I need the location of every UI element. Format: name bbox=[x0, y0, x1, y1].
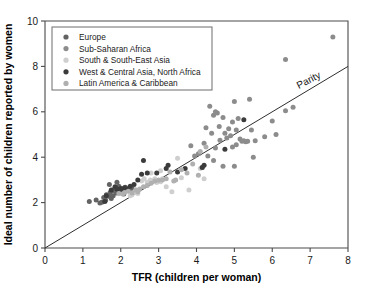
legend-swatch-4 bbox=[63, 69, 68, 74]
data-point bbox=[262, 134, 267, 139]
data-point bbox=[203, 144, 208, 149]
data-point bbox=[205, 154, 210, 159]
data-point bbox=[211, 158, 216, 163]
data-point bbox=[291, 105, 296, 110]
data-point bbox=[190, 162, 195, 167]
data-point bbox=[135, 177, 140, 182]
data-point bbox=[202, 176, 207, 181]
x-tick-label: 3 bbox=[156, 255, 162, 266]
legend-swatch-2 bbox=[63, 46, 68, 51]
data-point bbox=[236, 116, 241, 121]
data-point bbox=[226, 126, 231, 131]
data-point bbox=[175, 156, 180, 161]
x-tick-label: 2 bbox=[118, 255, 124, 266]
y-tick-label: 8 bbox=[32, 61, 38, 72]
data-point bbox=[274, 132, 279, 137]
data-point bbox=[186, 188, 191, 193]
data-point bbox=[283, 108, 288, 113]
data-point bbox=[232, 99, 237, 104]
data-point bbox=[107, 182, 112, 187]
y-axis-title: Ideal number of children reported by wom… bbox=[2, 24, 14, 246]
legend-swatch-5 bbox=[63, 81, 68, 86]
x-tick-label: 4 bbox=[194, 255, 200, 266]
legend-label-4: West & Central Asia, North Africa bbox=[79, 67, 201, 77]
data-point bbox=[253, 138, 258, 143]
x-tick-label: 8 bbox=[345, 255, 351, 266]
data-point bbox=[139, 172, 144, 177]
data-point bbox=[141, 158, 146, 163]
data-point bbox=[234, 127, 239, 132]
y-tick-label: 2 bbox=[32, 197, 38, 208]
data-point bbox=[209, 131, 214, 136]
data-point bbox=[135, 189, 140, 194]
legend-label-1: Europe bbox=[79, 32, 106, 42]
data-point bbox=[213, 109, 218, 114]
data-point bbox=[109, 188, 114, 193]
data-point bbox=[217, 124, 222, 129]
data-point bbox=[202, 163, 207, 168]
data-point bbox=[114, 180, 119, 185]
y-tick-label: 6 bbox=[32, 106, 38, 117]
data-point bbox=[245, 139, 250, 144]
data-point bbox=[251, 155, 256, 160]
data-point bbox=[179, 167, 184, 172]
scatter-chart: 0246810012345678TFR (children per woman)… bbox=[0, 0, 366, 298]
data-point bbox=[167, 169, 172, 174]
data-point bbox=[228, 133, 233, 138]
y-tick-label: 4 bbox=[32, 152, 38, 163]
y-tick-label: 0 bbox=[32, 243, 38, 254]
y-tick-label: 10 bbox=[27, 16, 39, 27]
data-point bbox=[104, 193, 109, 198]
data-point bbox=[120, 191, 125, 196]
data-point bbox=[188, 143, 193, 148]
data-point bbox=[198, 149, 203, 154]
data-point bbox=[192, 154, 197, 159]
data-point bbox=[154, 171, 159, 176]
data-point bbox=[145, 171, 150, 176]
legend-swatch-1 bbox=[63, 34, 68, 39]
data-point bbox=[196, 173, 201, 178]
data-point bbox=[247, 97, 252, 102]
data-point bbox=[234, 142, 239, 147]
data-point bbox=[213, 146, 218, 151]
data-point bbox=[164, 184, 169, 189]
data-point bbox=[132, 182, 137, 187]
parity-label: Parity bbox=[295, 69, 323, 90]
data-point bbox=[222, 131, 227, 136]
data-point bbox=[166, 163, 171, 168]
data-point bbox=[222, 147, 227, 152]
data-point bbox=[330, 34, 335, 39]
data-point bbox=[221, 164, 226, 169]
data-point bbox=[164, 176, 169, 181]
data-point bbox=[249, 127, 254, 132]
data-point bbox=[283, 57, 288, 62]
data-point bbox=[232, 164, 237, 169]
data-point bbox=[179, 175, 184, 180]
data-point bbox=[203, 125, 208, 130]
data-point bbox=[87, 199, 92, 204]
legend-label-5: Latin America & Caribbean bbox=[79, 78, 178, 88]
legend-label-2: Sub-Saharan Africa bbox=[79, 44, 151, 54]
x-tick-label: 0 bbox=[42, 255, 48, 266]
data-point bbox=[171, 179, 176, 184]
x-tick-label: 5 bbox=[232, 255, 238, 266]
x-tick-label: 1 bbox=[80, 255, 86, 266]
data-point bbox=[221, 115, 226, 120]
x-tick-label: 6 bbox=[269, 255, 275, 266]
x-axis-title: TFR (children per woman) bbox=[132, 271, 262, 283]
data-point bbox=[207, 104, 212, 109]
data-point bbox=[169, 189, 174, 194]
data-point bbox=[270, 118, 275, 123]
data-point bbox=[230, 120, 235, 125]
legend-swatch-3 bbox=[63, 58, 68, 63]
data-point bbox=[185, 171, 190, 176]
x-tick-label: 7 bbox=[307, 255, 313, 266]
data-point bbox=[217, 138, 222, 143]
data-point bbox=[241, 117, 246, 122]
data-point bbox=[102, 199, 107, 204]
legend-label-3: South & South-East Asia bbox=[79, 55, 170, 65]
